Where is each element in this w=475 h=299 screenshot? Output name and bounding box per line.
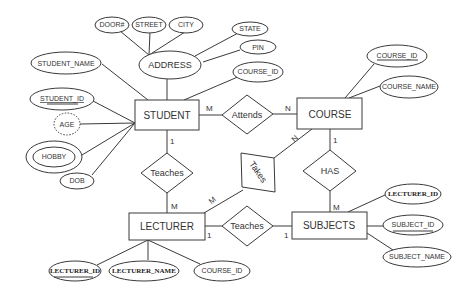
attribute-lecturer-name[interactable]: LECTURER_NAME xyxy=(109,261,179,281)
attribute-label: ADDRESS xyxy=(148,60,192,70)
relationship-label: Attends xyxy=(232,110,263,120)
attribute-pin[interactable]: PIN xyxy=(240,40,276,54)
attribute-label: PIN xyxy=(252,44,264,51)
attribute-label: SUBJECT_NAME xyxy=(389,253,445,261)
cardinality-label: N xyxy=(290,133,301,144)
entity-label: SUBJECTS xyxy=(303,220,356,231)
attribute-label: COURSE_NAME xyxy=(382,83,436,91)
attribute-label: CITY xyxy=(178,21,194,28)
entity-student[interactable]: STUDENT xyxy=(135,100,199,130)
attribute-city[interactable]: CITY xyxy=(169,17,203,33)
attribute-hobby-multivalued[interactable]: HOBBY xyxy=(26,141,82,173)
attribute-dob[interactable]: DOB xyxy=(60,173,94,189)
relationship-label: HAS xyxy=(321,166,340,176)
attribute-label: STREET xyxy=(135,21,163,28)
relationship-teaches-lecturer-subjects[interactable]: Teaches xyxy=(222,206,273,246)
attribute-label: LECTURER_NAME xyxy=(112,267,176,275)
attribute-label: LECTURER_ID xyxy=(388,190,438,198)
relationship-teaches-student-lecturer[interactable]: Teaches xyxy=(141,153,193,193)
attribute-student-id-key[interactable]: STUDENT_ID xyxy=(30,88,94,110)
attribute-label: COURSE_ID xyxy=(202,267,243,275)
relationship-label: Teaches xyxy=(150,168,184,178)
cardinality-label: N xyxy=(285,104,291,113)
attribute-label: STATE xyxy=(239,25,261,32)
attribute-course-id-key[interactable]: COURSE_ID xyxy=(367,45,427,67)
entity-subjects[interactable]: SUBJECTS xyxy=(292,212,367,239)
entity-label: STUDENT xyxy=(143,110,190,121)
attribute-door[interactable]: DOOR# xyxy=(95,17,129,33)
attribute-label: AGE xyxy=(60,121,75,128)
entity-label: COURSE xyxy=(309,109,352,120)
entity-label: LECTURER xyxy=(140,221,194,232)
attribute-lecturer-course-id[interactable]: COURSE_ID xyxy=(194,261,250,281)
attribute-label: COURSE_ID xyxy=(377,52,418,60)
cardinality-label: 1 xyxy=(170,137,175,146)
attribute-label: DOOR# xyxy=(100,21,125,28)
attribute-subject-id-key[interactable]: SUBJECT_ID xyxy=(383,215,443,235)
cardinality-label: M xyxy=(171,202,178,211)
attribute-label: LECTURER_ID xyxy=(50,267,100,275)
relationship-label: Teaches xyxy=(230,221,264,231)
cardinality-label: 1 xyxy=(284,231,289,240)
attribute-age-derived[interactable]: AGE xyxy=(54,113,80,135)
cardinality-label: M xyxy=(207,195,218,206)
attribute-lecturer-id-key[interactable]: LECTURER_ID xyxy=(49,261,101,281)
attribute-student-course-id[interactable]: COURSE_ID xyxy=(233,62,283,82)
attribute-label: HOBBY xyxy=(42,153,67,160)
attribute-subjects-lecturer-id[interactable]: LECTURER_ID xyxy=(385,184,441,204)
attribute-label: COURSE_ID xyxy=(238,68,279,76)
cardinality-label: 1 xyxy=(333,136,338,145)
relationship-takes[interactable]: Takes xyxy=(241,153,275,192)
cardinality-label: M xyxy=(206,104,213,113)
er-diagram: STUDENT COURSE LECTURER SUBJECTS Attends… xyxy=(0,0,475,299)
attribute-state[interactable]: STATE xyxy=(232,22,268,36)
attribute-student-name[interactable]: STUDENT_NAME xyxy=(31,52,101,74)
cardinality-label: 1 xyxy=(207,231,212,240)
cardinality-label: M xyxy=(333,203,340,212)
relationship-attends[interactable]: Attends xyxy=(222,95,273,134)
entity-course[interactable]: COURSE xyxy=(297,98,362,129)
relationship-has[interactable]: HAS xyxy=(303,150,356,191)
attribute-subject-name[interactable]: SUBJECT_NAME xyxy=(383,247,451,267)
attribute-course-name[interactable]: COURSE_NAME xyxy=(380,76,438,98)
attribute-label: SUBJECT_ID xyxy=(392,221,435,229)
attribute-address[interactable]: ADDRESS xyxy=(139,51,201,79)
attribute-label: DOB xyxy=(69,177,85,184)
entity-lecturer[interactable]: LECTURER xyxy=(129,213,205,240)
attribute-label: STUDENT_NAME xyxy=(37,60,95,68)
attribute-label: STUDENT_ID xyxy=(40,95,84,103)
attribute-street[interactable]: STREET xyxy=(132,17,166,33)
